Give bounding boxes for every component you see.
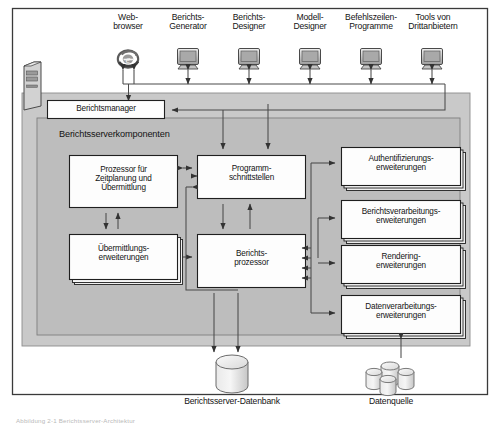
prozessor-zeitplanung-box[interactable] (70, 156, 178, 208)
authentifizierungserweiterungen-box[interactable] (342, 148, 466, 191)
monitor-icon-modell-designer (300, 49, 321, 70)
berichtsmanager-box[interactable] (48, 101, 165, 119)
monitor-icon-berichts-generator (178, 49, 199, 70)
datenverarbeitungserweiterungen-box[interactable] (342, 296, 466, 339)
renderingerweiterungen-box[interactable] (342, 246, 466, 289)
svg-text:e: e (126, 53, 131, 65)
monitor-icon-tools-von-drittanbietern (422, 49, 443, 70)
berichtsverarbeitungserweiterungen-box[interactable] (342, 201, 466, 244)
monitor-icon-befehlszeilen-programme (361, 49, 382, 70)
database-cylinder-icon (216, 355, 248, 393)
programmschnittstellen-box[interactable] (198, 156, 306, 199)
uebermittlungserweiterungen-box[interactable] (70, 235, 183, 285)
monitor-icon-berichts-designer (239, 49, 260, 70)
berichtsprozessor-box[interactable] (198, 235, 306, 288)
architecture-diagram: e (0, 0, 500, 428)
diagram-canvas: e (0, 0, 500, 428)
figure-caption: Abbildung 2-1 Berichtsserver-Architektur (16, 417, 135, 424)
server-tower-icon (24, 62, 41, 110)
